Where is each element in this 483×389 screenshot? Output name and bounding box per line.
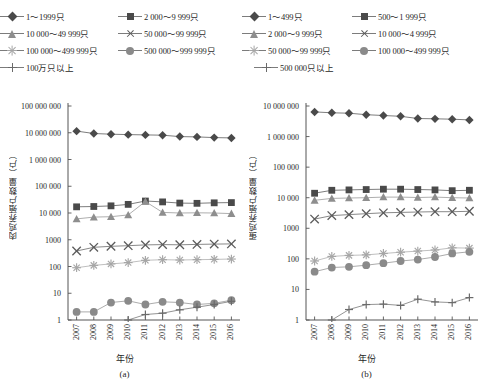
series-asterisk bbox=[72, 255, 236, 272]
x-tick-label: 2009 bbox=[106, 324, 115, 340]
plot-area-b bbox=[304, 100, 482, 322]
x-tick-label: 2010 bbox=[361, 324, 370, 340]
legend-row: 50 000～99 999只 100 000～499 999只 bbox=[242, 42, 483, 59]
diamond-marker-icon bbox=[0, 11, 24, 22]
legend-label: 500～1 999只 bbox=[376, 12, 427, 22]
legend-label: 2 000～9 999只 bbox=[142, 12, 199, 22]
x-tick-label: 2014 bbox=[430, 324, 439, 340]
x-tick-label: 2010 bbox=[123, 324, 132, 340]
legend-item[interactable]: 500 000只以上 bbox=[242, 59, 364, 76]
legend-item[interactable]: 10 000～49 999只 bbox=[0, 25, 118, 42]
legend-panel-a: 1～1999只 2 000～9 999只 10 000～49 999只 50 0… bbox=[0, 8, 241, 84]
series-cross bbox=[72, 240, 235, 255]
x-tick-label: 2013 bbox=[175, 324, 184, 340]
legend-label: 100 000～499 999只 bbox=[376, 46, 450, 56]
series-circle bbox=[311, 248, 474, 276]
y-tick-label: 1000 bbox=[242, 224, 299, 233]
legend-row: 10 000～49 999只 50 000～99 999只 bbox=[0, 25, 241, 42]
cross-marker-icon bbox=[352, 28, 376, 39]
legend-row: 100 000～499 999只 500 000～999 999只 bbox=[0, 42, 241, 59]
legend-item[interactable]: 10 000～4 999只 bbox=[352, 25, 437, 42]
series-square bbox=[311, 186, 473, 197]
x-tick-label: 2011 bbox=[378, 324, 387, 340]
triangle-marker-icon bbox=[242, 28, 266, 39]
x-tick-label: 2012 bbox=[158, 324, 167, 340]
y-tick-label: 1 000 000 bbox=[242, 132, 299, 141]
asterisk-marker-icon bbox=[242, 45, 266, 56]
y-tick-label: 10 bbox=[0, 289, 61, 298]
x-tick-label: 2012 bbox=[396, 324, 405, 340]
square-marker-icon bbox=[352, 11, 376, 22]
panel-a: 1～1999只 2 000～9 999只 10 000～49 999只 50 0… bbox=[0, 0, 241, 389]
y-tick-label: 10 000 bbox=[242, 193, 299, 202]
panel-b: 1～499只 500～1 999只 2 000～9 999只 10 000～4 … bbox=[242, 0, 483, 389]
legend-panel-b: 1～499只 500～1 999只 2 000～9 999只 10 000～4 … bbox=[242, 8, 483, 84]
legend-item[interactable]: 100 000～499 999只 bbox=[352, 42, 450, 59]
legend-item[interactable]: 50 000～99 999只 bbox=[118, 25, 207, 42]
asterisk-marker-icon bbox=[0, 45, 24, 56]
series-triangle bbox=[311, 193, 474, 204]
y-tick-label: 100 bbox=[0, 262, 61, 271]
legend-item[interactable]: 1～499只 bbox=[242, 8, 352, 25]
legend-row: 100万只以上 bbox=[0, 59, 241, 76]
legend-item[interactable]: 500 000～999 999只 bbox=[118, 42, 216, 59]
legend-row: 1～1999只 2 000～9 999只 bbox=[0, 8, 241, 25]
y-tick-label: 10 000 000 bbox=[242, 102, 299, 111]
diamond-marker-icon bbox=[242, 11, 266, 22]
plus-marker-icon bbox=[254, 62, 278, 73]
series-diamond bbox=[72, 127, 235, 142]
y-tick-label: 10 000 bbox=[0, 209, 61, 218]
x-axis-label-a: 年份 bbox=[4, 352, 245, 365]
legend-row: 500 000只以上 bbox=[242, 59, 483, 76]
legend-label: 500 000只以上 bbox=[278, 63, 334, 73]
legend-item[interactable]: 50 000～99 999只 bbox=[242, 42, 352, 59]
x-tick-label: 2009 bbox=[344, 324, 353, 340]
legend-label: 100万只以上 bbox=[24, 63, 74, 73]
x-tick-label: 2016 bbox=[464, 324, 473, 340]
y-tick-label: 1 bbox=[0, 316, 61, 325]
y-tick-label: 100 000 bbox=[242, 163, 299, 172]
series-diamond bbox=[310, 108, 473, 124]
x-tick-label: 2014 bbox=[192, 324, 201, 340]
y-tick-label: 1 bbox=[242, 316, 299, 325]
legend-label: 50 000～99 999只 bbox=[266, 46, 331, 56]
y-tick-label: 1 000 000 bbox=[0, 155, 61, 164]
y-tick-label: 100 000 000 bbox=[0, 102, 61, 111]
x-tick-label: 2008 bbox=[89, 324, 98, 340]
square-marker-icon bbox=[118, 11, 142, 22]
legend-label: 10 000～49 999只 bbox=[24, 29, 89, 39]
x-tick-label: 2015 bbox=[447, 324, 456, 340]
legend-row: 1～499只 500～1 999只 bbox=[242, 8, 483, 25]
legend-label: 100 000～499 999只 bbox=[24, 46, 98, 56]
legend-item[interactable]: 100万只以上 bbox=[0, 59, 118, 76]
y-tick-label: 1000 bbox=[0, 235, 61, 244]
circle-marker-icon bbox=[118, 45, 142, 56]
legend-label: 2 000～9 999只 bbox=[266, 29, 323, 39]
x-tick-label: 2011 bbox=[140, 324, 149, 340]
y-tick-label: 10 000 000 bbox=[0, 128, 61, 137]
series-square bbox=[73, 198, 235, 211]
panel-caption-a: (a) bbox=[4, 369, 245, 379]
legend-item[interactable]: 500～1 999只 bbox=[352, 8, 427, 25]
triangle-marker-icon bbox=[0, 28, 24, 39]
cross-marker-icon bbox=[118, 28, 142, 39]
legend-label: 50 000～99 999只 bbox=[142, 29, 207, 39]
legend-item[interactable]: 1～1999只 bbox=[0, 8, 118, 25]
legend-item[interactable]: 2 000～9 999只 bbox=[118, 8, 199, 25]
x-tick-label: 2007 bbox=[72, 324, 81, 340]
x-tick-label: 2016 bbox=[226, 324, 235, 340]
x-tick-label: 2013 bbox=[413, 324, 422, 340]
x-tick-label: 2007 bbox=[310, 324, 319, 340]
legend-label: 10 000～4 999只 bbox=[376, 29, 437, 39]
plus-marker-icon bbox=[0, 62, 24, 73]
y-tick-label: 10 bbox=[242, 285, 299, 294]
series-circle bbox=[73, 296, 236, 316]
legend-item[interactable]: 100 000～499 999只 bbox=[0, 42, 118, 59]
x-tick-label: 2015 bbox=[209, 324, 218, 340]
legend-row: 2 000～9 999只 10 000～4 999只 bbox=[242, 25, 483, 42]
plot-area-a bbox=[66, 100, 244, 322]
legend-item[interactable]: 2 000～9 999只 bbox=[242, 25, 352, 42]
x-axis-label-b: 年份 bbox=[246, 352, 483, 365]
x-tick-label: 2008 bbox=[327, 324, 336, 340]
series-cross bbox=[310, 207, 473, 223]
